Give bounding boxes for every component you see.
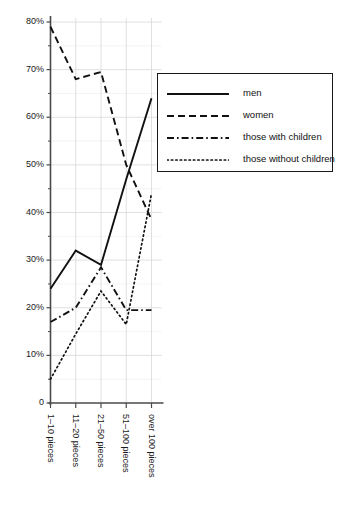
dashed-line-sample — [167, 108, 229, 120]
legend-label: women — [243, 109, 274, 120]
y-tick-label: 60% — [4, 112, 44, 121]
y-tick-label: 70% — [4, 65, 44, 74]
x-tick-label: 1–10 pieces — [46, 414, 55, 463]
legend-label: men — [243, 87, 261, 98]
legend-item-those-without-children: those without children — [167, 147, 335, 169]
grid-lines — [51, 18, 162, 403]
line-chart-figure: 80%70%60%50%40%30%20%10%0 1–10 pieces11–… — [0, 0, 351, 517]
legend-label: those without children — [243, 153, 335, 164]
legend-label: those with children — [243, 131, 322, 142]
legend-item-those-with-children: those with children — [167, 125, 322, 147]
axis-lines — [47, 16, 164, 408]
y-tick-label: 50% — [4, 160, 44, 169]
x-tick-label: 51–100 pieces — [121, 414, 130, 473]
solid-line-sample — [167, 86, 229, 98]
x-tick-label: 11–20 pieces — [71, 414, 80, 467]
x-tick-label: over 100 pieces — [147, 414, 156, 478]
y-tick-label: 40% — [4, 208, 44, 217]
y-tick-label: 80% — [4, 17, 44, 26]
chart-legend: menwomenthose with childrenthose without… — [157, 73, 333, 172]
x-tick-label: 21–50 pieces — [96, 414, 105, 468]
legend-item-women: women — [167, 103, 274, 125]
y-tick-label: 30% — [4, 255, 44, 264]
dotted-line-sample — [167, 152, 229, 164]
y-tick-label: 0 — [4, 398, 44, 407]
legend-item-men: men — [167, 81, 261, 103]
dash-dot-line-sample — [167, 130, 229, 142]
y-tick-label: 20% — [4, 303, 44, 312]
y-tick-label: 10% — [4, 350, 44, 359]
